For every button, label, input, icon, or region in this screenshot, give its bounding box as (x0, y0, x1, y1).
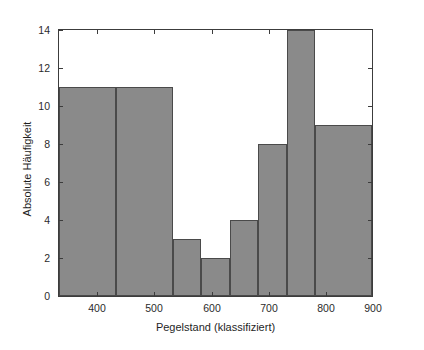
y-tick-mark-right-6 (368, 182, 373, 183)
bar-1 (116, 87, 173, 296)
x-tick-mark-500 (154, 292, 155, 297)
x-tick-label-400: 400 (77, 303, 117, 314)
bar-6 (287, 30, 315, 296)
x-tick-mark-600 (212, 292, 213, 297)
bar-5 (258, 144, 286, 296)
x-tick-mark-top-500 (154, 29, 155, 34)
y-tick-mark-right-4 (368, 220, 373, 221)
x-tick-mark-top-400 (97, 29, 98, 34)
x-tick-label-800: 800 (306, 303, 346, 314)
y-tick-mark-right-10 (368, 106, 373, 107)
x-tick-mark-400 (97, 292, 98, 297)
x-tick-mark-800 (326, 292, 327, 297)
bar-4 (230, 220, 258, 296)
bar-3 (201, 258, 229, 296)
y-axis-label: Absolute Häufigkeit (21, 79, 33, 259)
x-tick-label-700: 700 (249, 303, 289, 314)
y-tick-mark-10 (58, 106, 63, 107)
y-tick-mark-6 (58, 182, 63, 183)
x-tick-label-500: 500 (134, 303, 174, 314)
y-tick-mark-4 (58, 220, 63, 221)
plot-area (58, 29, 373, 297)
y-tick-mark-14 (58, 30, 63, 31)
x-tick-mark-700 (269, 292, 270, 297)
y-tick-label-12: 12 (24, 63, 50, 73)
y-tick-label-0: 0 (24, 291, 50, 301)
x-tick-mark-top-700 (269, 29, 270, 34)
y-tick-mark-12 (58, 68, 63, 69)
histogram-figure: 0 2 4 6 8 10 12 14 400 500 600 700 800 9… (0, 0, 424, 350)
y-tick-mark-0 (58, 296, 63, 297)
bar-7 (315, 125, 372, 296)
y-tick-mark-2 (58, 258, 63, 259)
y-tick-mark-8 (58, 144, 63, 145)
bar-0 (59, 87, 116, 296)
x-tick-label-900: 900 (353, 303, 393, 314)
x-tick-mark-top-600 (212, 29, 213, 34)
y-tick-mark-right-12 (368, 68, 373, 69)
x-axis-label: Pegelstand (klassifiziert) (58, 321, 373, 333)
y-tick-mark-right-2 (368, 258, 373, 259)
x-tick-label-600: 600 (192, 303, 232, 314)
bar-2 (173, 239, 201, 296)
y-tick-mark-right-8 (368, 144, 373, 145)
y-tick-label-14: 14 (24, 25, 50, 35)
